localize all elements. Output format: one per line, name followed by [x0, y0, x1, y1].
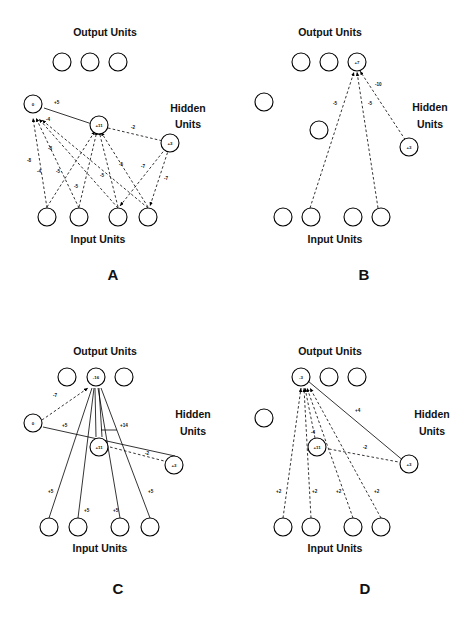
panel-b-output-units-label: Output Units	[298, 26, 362, 38]
panel-d-letter: D	[360, 580, 371, 597]
panel-a-input-unit-1[interactable]	[38, 208, 56, 226]
panel-c-weight-in2-out: +5	[84, 508, 90, 513]
panel-a-weight-in1-mid: -5	[56, 169, 61, 174]
panel-a-weight-in3-mid: -5	[100, 173, 105, 178]
panel-b-letter: B	[359, 266, 370, 283]
panel-b-hidden-unit-mid[interactable]	[310, 121, 328, 139]
figure-canvas: Output Units Hidden Units Input Units A …	[0, 0, 474, 635]
panel-d-hidden-right-value: +3	[406, 462, 412, 467]
panel-d-hidden-label-line2: Units	[419, 425, 445, 437]
panel-d-output-1-value: -3	[299, 375, 303, 380]
panel-a-hidden-right-value: +3	[167, 141, 173, 146]
panel-d-output-units-label: Output Units	[298, 345, 362, 357]
panel-b-input-units-label: Input Units	[308, 233, 363, 245]
panel-d-input-units-label: Input Units	[308, 542, 363, 554]
panel-c-input-unit-4[interactable]	[141, 518, 159, 536]
panel-b-input-unit-1[interactable]	[274, 208, 292, 226]
panel-c-letter: C	[113, 580, 124, 597]
panel-b-weight-in4-out: -5	[368, 101, 373, 106]
panel-a-weight-in1-left: -8	[27, 158, 32, 163]
panel-d-weight-in3-out: +2	[336, 489, 342, 494]
panel-a-hidden-label-line1: Hidden	[170, 102, 206, 114]
panel-c-output-unit-1[interactable]	[58, 368, 76, 386]
panel-d-hidden-label-line1: Hidden	[414, 408, 450, 420]
panel-d-weight-in2-out: +2	[312, 489, 318, 494]
panel-a-weight-in2-mid: -5	[74, 184, 79, 189]
panel-a-output-unit-1[interactable]	[53, 53, 71, 71]
panel-d-input-unit-4[interactable]	[372, 518, 390, 536]
panel-d-weight-in4-out: +2	[374, 489, 380, 494]
panel-a-input-unit-2[interactable]	[70, 208, 88, 226]
panel-a-weight-left-mid: +5	[54, 100, 60, 105]
panel-a-weight-in4-right: -7	[164, 176, 169, 181]
panel-a-weight-in3-left: -8	[48, 146, 53, 151]
panel-c-hidden-label-line1: Hidden	[175, 408, 211, 420]
panel-b-output-3-value: +7	[354, 60, 360, 65]
panel-b-hidden-label-line1: Hidden	[412, 101, 448, 113]
panel-a-output-units-label: Output Units	[73, 26, 137, 38]
panel-a-weight-in4-mid: -5	[119, 162, 124, 167]
panel-b-output-unit-1[interactable]	[292, 53, 310, 71]
panel-d-hidden-mid-value: +11	[313, 445, 321, 450]
panel-a-input-unit-3[interactable]	[109, 208, 127, 226]
panel-b-input-unit-4[interactable]	[372, 208, 390, 226]
panel-c-output-2-value: -16	[93, 375, 100, 380]
panel-b-output-unit-2[interactable]	[320, 53, 338, 71]
panel-a-weight-mid-right: -2	[131, 125, 136, 130]
panel-a-hidden-mid-value: +11	[95, 123, 103, 128]
panel-d-input-unit-3[interactable]	[344, 518, 362, 536]
panel-d-output-unit-3[interactable]	[348, 368, 366, 386]
panel-d-weight-hidmid-out: -4	[311, 430, 316, 435]
neural-network-figure: Output Units Hidden Units Input Units A …	[0, 0, 474, 635]
panel-b-hidden-right-value: +3	[406, 145, 412, 150]
panel-b-weight-in2-out: -5	[333, 101, 338, 106]
panel-a-output-unit-2[interactable]	[81, 53, 99, 71]
panel-a-weight-in3-right: -7	[141, 164, 146, 169]
panel-b-hidden-label-line2: Units	[417, 118, 443, 130]
panel-c-hidden-label-line2: Units	[180, 425, 206, 437]
panel-c-hidden-right-value: +3	[171, 463, 177, 468]
panel-c-output-unit-3[interactable]	[115, 368, 133, 386]
panel-c-weight-hidmid-out: +14	[120, 423, 128, 428]
panel-d-weight-in1-out: +2	[276, 489, 282, 494]
panel-a-hidden-label-line2: Units	[175, 118, 201, 130]
panel-d-hidden-unit-left[interactable]	[255, 409, 273, 427]
panel-c-input-unit-3[interactable]	[111, 518, 129, 536]
panel-c-weight-hidleft-hidmid: +5	[62, 423, 68, 428]
panel-c-weight-in1-out: +5	[48, 489, 54, 494]
panel-a-output-unit-3[interactable]	[109, 53, 127, 71]
panel-c-weight-hidmid-hidright: -2	[145, 451, 150, 456]
panel-b-weight-out-hidright: -10	[375, 82, 382, 87]
panel-c-input-units-label: Input Units	[73, 542, 128, 554]
panel-c-weight-in3-out: +5	[113, 508, 119, 513]
panel-c-hidden-mid-value: +11	[95, 445, 103, 450]
panel-c-output-units-label: Output Units	[73, 345, 137, 357]
panel-b-input-unit-2[interactable]	[302, 208, 320, 226]
panel-d-input-unit-1[interactable]	[274, 518, 292, 536]
panel-b-input-unit-3[interactable]	[344, 208, 362, 226]
panel-c-weight-hidleft-out: -7	[53, 393, 58, 398]
panel-c-input-unit-2[interactable]	[69, 518, 87, 536]
panel-d-weight-hidright-out: +4	[355, 408, 361, 413]
panel-d-output-unit-2[interactable]	[320, 368, 338, 386]
panel-a-letter: A	[108, 266, 119, 283]
panel-c-input-unit-1[interactable]	[40, 518, 58, 536]
panel-a-weight-mid-left: -4	[46, 117, 51, 122]
panel-c-weight-in4-out: +5	[148, 489, 154, 494]
canvas-background	[0, 0, 474, 635]
panel-a-input-unit-4[interactable]	[139, 208, 157, 226]
panel-d-input-unit-2[interactable]	[302, 518, 320, 536]
panel-a-weight-in2-left: -4	[37, 169, 42, 174]
panel-a-input-units-label: Input Units	[71, 233, 126, 245]
panel-d-weight-hidmid-hidright: -2	[363, 445, 368, 450]
panel-b-hidden-unit-left[interactable]	[255, 93, 273, 111]
